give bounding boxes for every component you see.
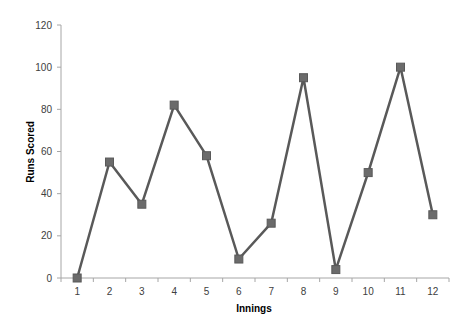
y-axis: 020406080100120	[35, 20, 61, 284]
data-point-marker	[300, 74, 308, 82]
x-axis-title: Innings	[236, 303, 272, 314]
x-tick-label: 9	[333, 286, 339, 297]
x-tick-label: 5	[204, 286, 210, 297]
x-tick-label: 2	[107, 286, 113, 297]
data-point-marker	[170, 101, 178, 109]
line-chart: 020406080100120 123456789101112 Innings …	[0, 0, 468, 329]
data-point-marker	[203, 152, 211, 160]
data-series	[73, 63, 437, 282]
x-tick-label: 11	[395, 286, 406, 297]
x-tick-label: 12	[427, 286, 439, 297]
data-point-marker	[397, 63, 405, 71]
data-point-marker	[267, 219, 275, 227]
data-point-marker	[138, 200, 146, 208]
x-tick-label: 3	[139, 286, 145, 297]
data-point-marker	[106, 158, 114, 166]
x-tick-label: 6	[236, 286, 242, 297]
x-tick-label: 10	[363, 286, 375, 297]
x-tick-label: 7	[268, 286, 274, 297]
x-tick-label: 8	[301, 286, 307, 297]
x-tick-label: 1	[74, 286, 80, 297]
series-line	[77, 67, 433, 278]
data-point-marker	[235, 255, 243, 263]
y-tick-label: 100	[35, 62, 52, 73]
y-tick-label: 20	[41, 230, 53, 241]
data-point-marker	[429, 211, 437, 219]
y-tick-label: 120	[35, 20, 52, 31]
x-tick-label: 4	[171, 286, 177, 297]
y-tick-label: 40	[41, 188, 53, 199]
data-point-marker	[364, 169, 372, 177]
y-tick-label: 0	[46, 273, 52, 284]
data-point-marker	[332, 266, 340, 274]
y-tick-label: 80	[41, 104, 53, 115]
y-tick-label: 60	[41, 146, 53, 157]
x-axis: 123456789101112	[61, 278, 449, 297]
y-axis-title: Runs Scored	[25, 121, 36, 183]
data-point-marker	[73, 274, 81, 282]
